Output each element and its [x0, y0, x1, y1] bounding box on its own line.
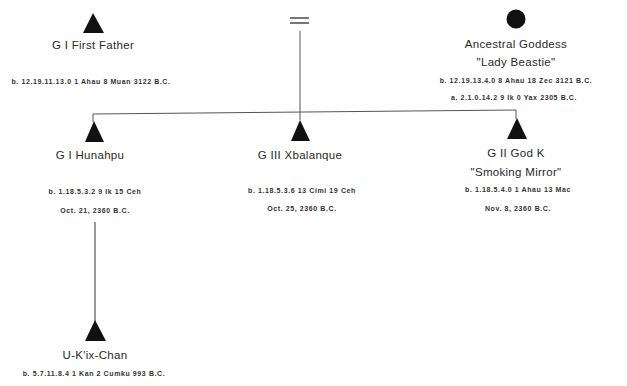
first-father-name: G I First Father: [52, 39, 134, 51]
xbalanque-birth: b. 1.18.5.3.6 13 Cimi 19 Ceh: [248, 187, 356, 194]
male-triangle-icon: [291, 120, 310, 141]
u-kix-chan-birth: b. 5.7.11.8.4 1 Kan 2 Cumku 993 B.C.: [23, 370, 166, 377]
ancestral-goddess-epithet: "Lady Beastie": [477, 56, 556, 68]
ancestral-goddess-birth: b. 12.19.13.4.0 8 Ahau 18 Zec 3121 B.C.: [440, 77, 593, 84]
god-k-epithet: "Smoking Mirror": [471, 166, 562, 178]
male-triangle-icon: [507, 118, 527, 139]
u-kix-chan-name: U-K'ix-Chan: [63, 349, 128, 361]
hunahpu-date: Oct. 21, 2360 B.C.: [60, 207, 130, 214]
male-triangle-icon: [85, 121, 104, 142]
xbalanque-date: Oct. 25, 2360 B.C.: [267, 205, 337, 212]
hunahpu-name: G I Hunahpu: [56, 149, 125, 161]
ancestral-goddess-name: Ancestral Goddess: [465, 38, 567, 50]
male-triangle-icon: [85, 320, 106, 341]
male-triangle-icon: [83, 13, 104, 33]
hunahpu-birth: b. 1.18.5.3.2 9 Ik 15 Ceh: [49, 188, 142, 195]
sibling-bar: [93, 110, 516, 114]
god-k-birth: b. 1.18.5.4.0 1 Ahau 13 Mac: [465, 186, 571, 193]
god-k-name: G II God K: [487, 147, 544, 159]
female-circle-icon: [507, 10, 526, 29]
first-father-birth: b. 12.19.11.13.0 1 Ahau 8 Muan 3122 B.C.: [11, 78, 170, 85]
ancestral-goddess-accession: a. 2.1.0.14.2 9 Ik 0 Yax 2305 B.C.: [451, 94, 577, 101]
xbalanque-name: G III Xbalanque: [258, 149, 342, 161]
god-k-date: Nov. 8, 2360 B.C.: [485, 205, 551, 212]
